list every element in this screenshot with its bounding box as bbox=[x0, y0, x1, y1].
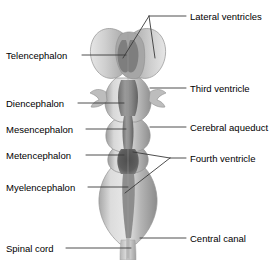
label-central-canal: Central canal bbox=[190, 233, 246, 244]
label-myelencephalon: Myelencephalon bbox=[6, 182, 75, 193]
label-cerebral-aqueduct: Cerebral aqueduct bbox=[190, 122, 268, 133]
diencephalon-wing-left bbox=[90, 89, 107, 107]
label-fourth-ventricle: Fourth ventricle bbox=[190, 153, 255, 164]
label-diencephalon: Diencephalon bbox=[6, 98, 64, 109]
label-spinal-cord: Spinal cord bbox=[6, 243, 54, 254]
label-metencephalon: Metencephalon bbox=[6, 150, 71, 161]
anatomical-figure: TelencephalonDiencephalonMesencephalonMe… bbox=[0, 0, 276, 260]
label-telencephalon: Telencephalon bbox=[6, 50, 67, 61]
label-third-ventricle: Third ventricle bbox=[190, 83, 250, 94]
label-mesencephalon: Mesencephalon bbox=[6, 124, 73, 135]
diencephalon-wing-right bbox=[149, 89, 166, 107]
label-lateral-ventricles: Lateral ventricles bbox=[190, 11, 262, 22]
